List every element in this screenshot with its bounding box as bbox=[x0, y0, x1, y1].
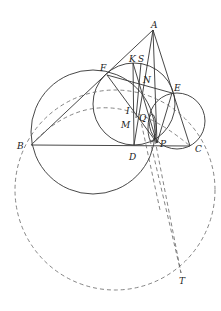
label-N: N bbox=[142, 75, 152, 85]
label-P: P bbox=[159, 139, 167, 149]
label-F: F bbox=[99, 63, 107, 73]
label-D: D bbox=[128, 152, 136, 162]
label-T: T bbox=[179, 276, 186, 286]
label-M: M bbox=[120, 120, 131, 130]
label-E: E bbox=[173, 83, 181, 93]
label-K: K bbox=[128, 54, 137, 64]
label-Q: Q bbox=[139, 113, 147, 123]
geometry-diagram: A B C D E F K S N I M Q P T bbox=[0, 0, 221, 311]
dashed-line-PT bbox=[150, 140, 181, 273]
segment-FP bbox=[107, 75, 157, 143]
segment-KD bbox=[133, 63, 134, 145]
label-S: S bbox=[138, 54, 144, 64]
label-A: A bbox=[150, 20, 158, 30]
label-B: B bbox=[16, 141, 24, 151]
label-C: C bbox=[195, 144, 202, 154]
circle-EC bbox=[149, 93, 205, 149]
diagram-canvas: A B C D E F K S N I M Q P T bbox=[0, 0, 221, 311]
segment-BC bbox=[31, 145, 190, 146]
segment-EP bbox=[157, 93, 172, 143]
label-I: I bbox=[125, 106, 130, 116]
